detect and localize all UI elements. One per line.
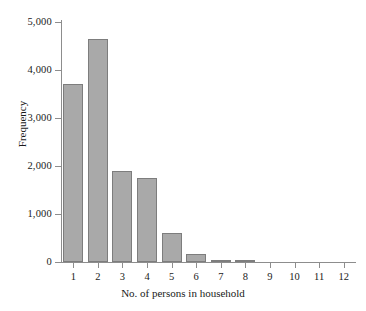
y-axis-tick-label: 1,000 <box>27 209 52 219</box>
y-axis-tick <box>55 262 61 263</box>
y-axis-tick-label: 2,000 <box>27 161 52 171</box>
y-axis-tick-label: 5,000 <box>27 17 52 27</box>
x-axis-tick <box>122 263 123 268</box>
y-axis-title: Frequency <box>16 79 28 169</box>
x-axis-tick <box>319 263 320 268</box>
x-axis-tick <box>295 263 296 268</box>
x-axis-title: No. of persons in household <box>0 287 366 299</box>
bar <box>211 260 231 262</box>
x-axis-tick <box>196 263 197 268</box>
x-axis-tick <box>245 263 246 268</box>
x-axis-tick-label: 12 <box>329 271 359 283</box>
y-axis-tick-label: 0 <box>47 257 52 267</box>
x-axis-tick <box>172 263 173 268</box>
x-axis-tick <box>270 263 271 268</box>
x-axis-tick <box>221 263 222 268</box>
bar <box>235 260 255 262</box>
x-axis-tick <box>73 263 74 268</box>
bars-layer <box>61 22 356 262</box>
x-axis-line <box>61 262 356 263</box>
bar <box>112 171 132 262</box>
bar <box>63 84 83 262</box>
bar <box>137 178 157 262</box>
x-axis-tick <box>98 263 99 268</box>
bar-chart-figure: Frequency 01,0002,0003,0004,0005,000 123… <box>0 0 366 311</box>
bar <box>88 39 108 262</box>
x-axis-tick <box>344 263 345 268</box>
bar <box>162 233 182 262</box>
x-axis-tick <box>147 263 148 268</box>
y-axis-tick-label: 4,000 <box>27 65 52 75</box>
bar <box>186 254 206 262</box>
y-axis-tick-label: 3,000 <box>27 113 52 123</box>
